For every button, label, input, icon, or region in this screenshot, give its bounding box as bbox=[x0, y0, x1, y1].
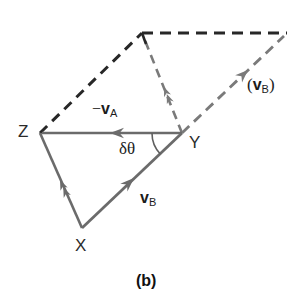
vector-diagram-figure: −vA (vB) vB δθ Z Y X (b) bbox=[0, 0, 299, 302]
top-vertex-tick bbox=[142, 33, 146, 44]
label-v-b-parenthetical: (vB) bbox=[247, 76, 275, 95]
v-symbol: v bbox=[253, 76, 262, 93]
subscript-b: B bbox=[149, 196, 156, 208]
v-symbol: v bbox=[101, 100, 110, 117]
vector-diagram-svg bbox=[0, 0, 299, 302]
z-to-top-dashed-line bbox=[40, 33, 142, 133]
label-v-b: vB bbox=[140, 190, 156, 208]
vertex-label-x: X bbox=[75, 237, 86, 254]
subscript-a: A bbox=[110, 107, 117, 119]
v-a-vertical-dashed-line bbox=[144, 38, 182, 133]
v-a-vertical-dashed-arrowhead bbox=[161, 86, 174, 105]
minus-sign: − bbox=[92, 100, 101, 117]
v-a-left-line bbox=[40, 133, 82, 228]
close-paren: ) bbox=[269, 75, 275, 94]
v-symbol: v bbox=[140, 189, 149, 206]
subscript-b: B bbox=[262, 83, 269, 95]
delta-theta-arc bbox=[152, 133, 160, 154]
label-delta-theta: δθ bbox=[119, 140, 135, 157]
vertex-label-z: Z bbox=[18, 123, 28, 140]
figure-caption: (b) bbox=[136, 273, 156, 289]
label-minus-v-a: −vA bbox=[92, 101, 117, 119]
vertex-label-y: Y bbox=[189, 134, 200, 151]
